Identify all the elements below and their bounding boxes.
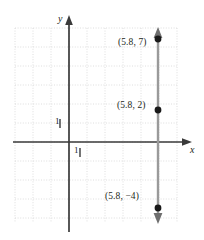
point-label-bottom: (5.8, −4) — [105, 191, 139, 201]
coordinate-plane — [0, 0, 204, 240]
point-bottom — [155, 205, 162, 212]
plotted-line-x-equals-5-8[interactable] — [154, 27, 163, 224]
graph-figure: (5.8, 7) (5.8, 2) (5.8, −4) y x 1 1 — [0, 0, 204, 240]
grid-vertical-lines — [15, 28, 177, 222]
point-label-top: (5.8, 7) — [118, 37, 147, 47]
point-top — [155, 36, 162, 43]
x-axis — [13, 138, 192, 146]
y-axis — [65, 15, 73, 232]
x-axis-tick-label-1: 1 — [74, 145, 79, 155]
y-axis-tick-label-1: 1 — [55, 116, 60, 126]
point-middle — [155, 107, 162, 114]
x-axis-label: x — [190, 144, 194, 155]
point-label-middle: (5.8, 2) — [117, 100, 146, 110]
line-arrow-down-icon — [154, 213, 163, 224]
grid-horizontal-lines — [15, 28, 177, 218]
y-axis-label: y — [58, 13, 62, 24]
